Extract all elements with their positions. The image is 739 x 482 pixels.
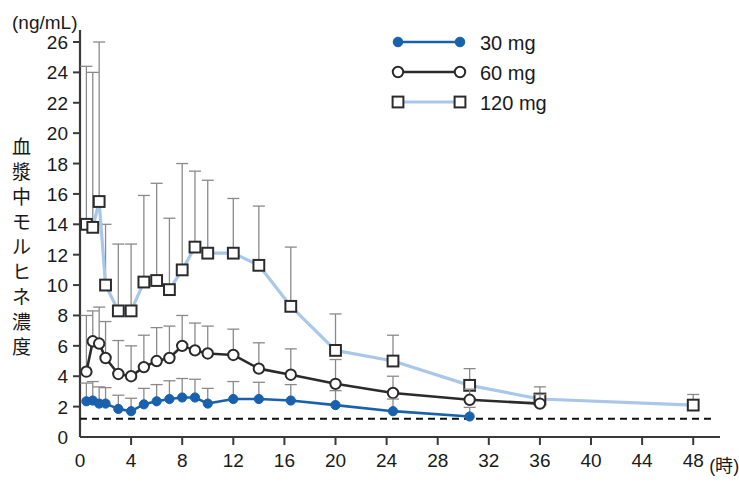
legend-item-120-mg[interactable]: 120 mg	[393, 92, 547, 114]
y-tick-label: 22	[47, 93, 68, 114]
data-point	[177, 264, 188, 275]
data-point	[81, 366, 91, 376]
y-tick-label: 4	[57, 366, 68, 387]
x-tick-label: 44	[632, 450, 654, 471]
data-point	[114, 404, 123, 413]
data-point	[688, 400, 699, 411]
series-line	[86, 202, 693, 406]
data-point	[113, 369, 123, 379]
data-point	[165, 394, 174, 403]
x-tick-label: 28	[427, 450, 448, 471]
data-point	[285, 301, 296, 312]
x-tick-label: 0	[75, 450, 86, 471]
x-tick-label: 20	[325, 450, 346, 471]
data-point	[127, 407, 136, 416]
legend-label: 30 mg	[480, 32, 536, 54]
x-tick-label: 36	[529, 450, 550, 471]
y-axis-title-char: モ	[8, 210, 34, 235]
x-tick-label: 12	[223, 450, 244, 471]
y-tick-label: 2	[57, 397, 68, 418]
data-point	[151, 275, 162, 286]
data-point	[139, 400, 148, 409]
y-axis-title-char: ネ	[8, 285, 34, 310]
data-point	[190, 345, 200, 355]
y-axis-title-char: ヒ	[8, 260, 34, 285]
y-tick-label: 12	[47, 245, 68, 266]
data-point	[177, 341, 187, 351]
legend-label: 60 mg	[480, 62, 536, 84]
y-axis-title: 血漿中モルヒネ濃度	[8, 135, 34, 360]
data-point	[286, 370, 296, 380]
x-tick-label: 48	[683, 450, 704, 471]
y-tick-label: 6	[57, 336, 68, 357]
data-point	[388, 388, 398, 398]
y-tick-label: 26	[47, 32, 68, 53]
data-point	[87, 222, 98, 233]
data-point	[126, 371, 136, 381]
x-tick-label: 32	[478, 450, 499, 471]
y-axis-title-char: 濃	[8, 310, 34, 335]
data-point	[101, 399, 110, 408]
data-point	[228, 350, 238, 360]
legend-item-60-mg[interactable]: 60 mg	[393, 62, 536, 84]
data-point	[164, 284, 175, 295]
data-point	[203, 348, 213, 358]
data-point	[465, 412, 474, 421]
y-axis-title-char: ル	[8, 235, 34, 260]
data-point	[330, 379, 340, 389]
legend-marker	[393, 37, 403, 47]
series-60-mg	[80, 307, 546, 409]
data-point	[100, 353, 110, 363]
data-point	[388, 356, 399, 367]
data-point	[464, 395, 474, 405]
data-point	[139, 362, 149, 372]
data-point	[286, 396, 295, 405]
x-tick-label: 40	[580, 450, 601, 471]
data-point	[138, 277, 149, 288]
y-tick-label: 16	[47, 184, 68, 205]
data-point	[330, 345, 341, 356]
legend-marker	[455, 67, 465, 77]
data-point	[331, 400, 340, 409]
legend-marker	[455, 37, 465, 47]
legend-marker	[455, 97, 466, 108]
data-point	[254, 394, 263, 403]
data-point	[178, 393, 187, 402]
data-point	[94, 338, 104, 348]
legend-marker	[393, 67, 403, 77]
data-point	[253, 260, 264, 271]
data-point	[388, 407, 397, 416]
data-point	[152, 397, 161, 406]
y-tick-label: 10	[47, 275, 68, 296]
legend-item-30-mg[interactable]: 30 mg	[393, 32, 535, 54]
data-point	[228, 248, 239, 259]
y-axis-title-char: 度	[8, 335, 34, 360]
data-point	[190, 242, 201, 253]
y-axis-title-char: 中	[8, 185, 34, 210]
y-tick-label: 24	[47, 62, 69, 83]
data-point	[164, 353, 174, 363]
y-tick-label: 14	[47, 214, 69, 235]
data-point	[190, 393, 199, 402]
legend-marker	[393, 97, 404, 108]
y-axis-title-char: 漿	[8, 160, 34, 185]
x-axis-unit-label: (時)	[709, 451, 739, 477]
legend[interactable]: 30 mg60 mg120 mg	[393, 32, 547, 114]
y-axis-unit-label: (ng/mL)	[12, 12, 77, 34]
y-tick-label: 20	[47, 123, 68, 144]
x-tick-label: 16	[274, 450, 295, 471]
data-point	[94, 196, 105, 207]
data-point	[126, 306, 137, 317]
data-point	[100, 280, 111, 291]
x-tick-label: 24	[376, 450, 398, 471]
data-point	[229, 394, 238, 403]
legend-label: 120 mg	[480, 92, 547, 114]
y-tick-label: 8	[57, 305, 68, 326]
data-point	[202, 248, 213, 259]
x-tick-label: 4	[126, 450, 137, 471]
data-point	[535, 398, 545, 408]
data-point	[151, 356, 161, 366]
data-point	[254, 363, 264, 373]
